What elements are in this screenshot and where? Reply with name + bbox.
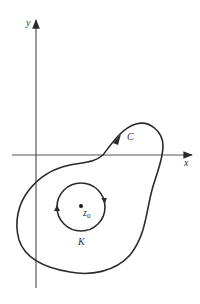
circle-k-label: K [77, 236, 86, 247]
y-axis-label: y [25, 17, 31, 28]
contour-diagram: y x C z0 K [0, 0, 200, 304]
circle-k-arrow-left-icon [54, 205, 60, 211]
contour-c-label: C [127, 131, 134, 142]
point-z0-label: z0 [82, 207, 91, 220]
circle-k-arrow-right-icon [102, 198, 108, 204]
x-axis-label: x [183, 157, 189, 168]
contour-c [17, 123, 163, 273]
